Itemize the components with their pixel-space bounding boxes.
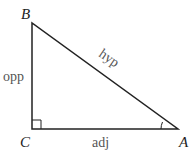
angle-arc-a — [161, 122, 163, 129]
side-label-adj: adj — [92, 135, 109, 150]
side-label-hyp: hyp — [96, 46, 122, 70]
vertex-label-c: C — [20, 134, 31, 150]
triangle — [32, 23, 178, 129]
vertex-label-b: B — [21, 6, 30, 22]
side-label-opp: opp — [3, 69, 24, 84]
vertex-label-a: A — [178, 134, 189, 150]
right-triangle-diagram: B C A opp adj hyp — [0, 0, 196, 156]
right-angle-marker — [32, 120, 41, 129]
